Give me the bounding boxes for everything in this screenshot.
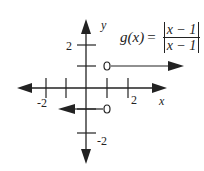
ray-right-arrow-icon [168,61,184,71]
open-circle-icon [104,62,110,70]
y-axis-down-arrow-icon [81,149,91,164]
x-axis-left-arrow-icon [17,83,32,93]
formula-equals: = [147,29,155,46]
y-axis-up-arrow-icon [81,19,91,34]
y-axis [81,19,91,164]
x-tick-label-2: 2 [131,93,137,107]
ray-left-arrow-icon [58,104,75,114]
y-tick-label-2: 2 [66,39,72,53]
piece-lower-ray [58,104,110,114]
formula-lhs: g(x) [120,29,144,46]
x-axis-right-arrow-icon [152,83,167,93]
x-axis-label: x [158,94,165,108]
y-axis-label: y [100,18,107,32]
y-tick-label-neg2: -2 [97,134,107,148]
piece-upper-ray [104,61,184,71]
formula-fraction: x − 1 x − 1 [163,22,201,53]
formula-denominator: x − 1 [164,38,200,53]
x-tick-label-neg2: -2 [37,96,47,110]
function-formula: g(x) = x − 1 x − 1 [120,22,200,53]
open-circle-icon [104,105,110,113]
formula-numerator: x − 1 [164,22,200,37]
function-graph-figure: 2 -2 -2 2 x y g(x) = x − 1 x − 1 [0,0,204,171]
x-axis [17,83,167,93]
